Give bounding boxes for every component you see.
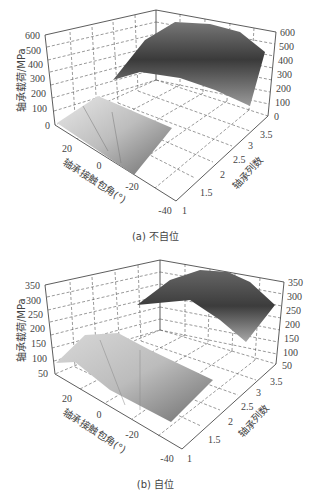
svg-text:400: 400 [278, 55, 293, 66]
svg-text:0: 0 [97, 409, 102, 420]
svg-text:200: 200 [30, 323, 45, 334]
svg-text:300: 300 [30, 73, 45, 84]
svg-text:20: 20 [62, 143, 72, 154]
chart-panel-a: 600500 400300 200100 0 600500 400300 200… [0, 0, 311, 250]
svg-text:100: 100 [283, 347, 298, 358]
svg-text:350: 350 [25, 280, 40, 291]
svg-text:0: 0 [45, 120, 50, 131]
surface-row1-b [56, 333, 213, 422]
svg-text:0: 0 [274, 111, 279, 122]
z-axis-label-a: 轴承载荷/MPa [15, 48, 27, 112]
svg-text:-40: -40 [158, 205, 171, 216]
svg-text:600: 600 [25, 30, 40, 41]
svg-text:2.5: 2.5 [233, 154, 246, 165]
surface-plot-b: 350300 250200 150100 50 350300 250200 15… [0, 250, 311, 499]
svg-text:2.5: 2.5 [241, 401, 254, 412]
svg-text:50: 50 [282, 360, 292, 371]
svg-text:500: 500 [279, 41, 294, 52]
z-axis-label-b: 轴承载荷/MPa [15, 298, 27, 362]
svg-text:300: 300 [26, 295, 41, 306]
svg-text:0: 0 [97, 160, 102, 171]
svg-text:200: 200 [285, 319, 300, 330]
svg-text:500: 500 [26, 45, 41, 56]
caption-b: (b) 自位 [0, 476, 311, 491]
y-ticks-a: 11.5 22.5 33.5 [182, 129, 273, 216]
svg-text:3.5: 3.5 [270, 376, 283, 387]
svg-text:2: 2 [228, 416, 233, 427]
z-ticks-left-b: 350300 250200 150100 50 [25, 280, 48, 379]
svg-text:1: 1 [187, 453, 192, 464]
svg-text:600: 600 [280, 27, 295, 38]
svg-text:300: 300 [287, 291, 302, 302]
svg-text:400: 400 [28, 59, 43, 70]
svg-text:-20: -20 [125, 181, 138, 192]
svg-text:200: 200 [276, 83, 291, 94]
svg-text:3.5: 3.5 [260, 129, 273, 140]
svg-text:350: 350 [288, 277, 303, 288]
svg-text:300: 300 [277, 69, 292, 80]
svg-text:250: 250 [286, 305, 301, 316]
svg-text:100: 100 [32, 103, 47, 114]
chart-panel-b: 350300 250200 150100 50 350300 250200 15… [0, 250, 311, 499]
surface-plot-a: 600500 400300 200100 0 600500 400300 200… [0, 0, 311, 250]
svg-text:1.5: 1.5 [208, 434, 221, 445]
svg-text:20: 20 [62, 393, 72, 404]
svg-text:150: 150 [284, 333, 299, 344]
svg-text:-40: -40 [160, 453, 173, 464]
svg-text:250: 250 [28, 309, 43, 320]
svg-text:3: 3 [256, 387, 261, 398]
svg-text:2: 2 [220, 169, 225, 180]
surface-row4-a [113, 22, 265, 106]
x-axis-label-b: 轴承接触包角(°) [61, 406, 129, 456]
caption-a: (a) 不自位 [0, 228, 311, 243]
z-ticks-right-a: 600500 400300 200100 0 [274, 27, 295, 122]
svg-text:1: 1 [182, 205, 187, 216]
svg-text:-20: -20 [125, 429, 138, 440]
svg-text:100: 100 [275, 97, 290, 108]
z-ticks-right-b: 350300 250200 150100 50 [282, 277, 303, 371]
svg-text:3: 3 [248, 140, 253, 151]
svg-text:1.5: 1.5 [200, 187, 213, 198]
svg-text:100: 100 [32, 353, 47, 364]
svg-text:50: 50 [38, 368, 48, 379]
svg-text:200: 200 [31, 88, 46, 99]
svg-text:150: 150 [31, 338, 46, 349]
